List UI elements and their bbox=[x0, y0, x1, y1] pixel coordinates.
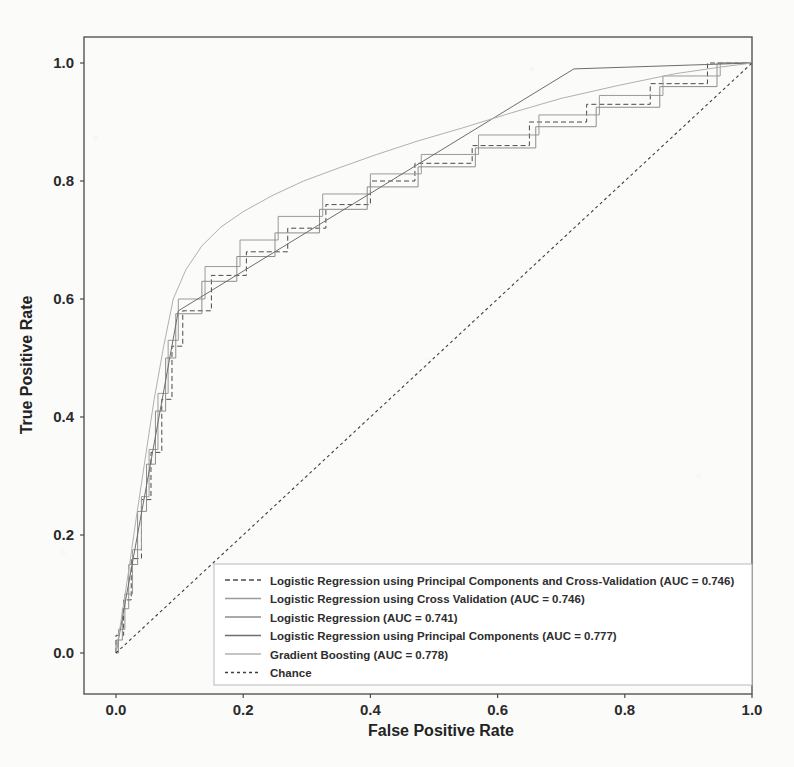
y-tick-label: 0.6 bbox=[53, 290, 74, 307]
legend-label-1: Logistic Regression using Cross Validati… bbox=[270, 593, 585, 605]
y-tick-label: 1.0 bbox=[53, 54, 74, 71]
y-tick-label: 0.0 bbox=[53, 644, 74, 661]
x-tick-label: 1.0 bbox=[742, 701, 763, 718]
y-axis-ticks: 0.00.20.40.60.81.0 bbox=[53, 54, 84, 661]
x-tick-label: 0.4 bbox=[360, 701, 382, 718]
legend-label-5: Chance bbox=[270, 667, 312, 679]
legend-label-2: Logistic Regression (AUC = 0.741) bbox=[270, 612, 458, 624]
y-tick-label: 0.2 bbox=[53, 526, 74, 543]
legend-label-0: Logistic Regression using Principal Comp… bbox=[270, 575, 734, 587]
y-axis-title: True Positive Rate bbox=[18, 296, 35, 435]
roc-chart-svg: 0.00.20.40.60.81.0 0.00.20.40.60.81.0 Fa… bbox=[0, 0, 794, 767]
x-tick-label: 0.2 bbox=[233, 701, 254, 718]
legend-label-3: Logistic Regression using Principal Comp… bbox=[270, 630, 617, 642]
chart-legend[interactable]: Logistic Regression using Principal Comp… bbox=[214, 564, 752, 685]
x-axis-title: False Positive Rate bbox=[368, 722, 514, 739]
y-tick-label: 0.4 bbox=[53, 408, 75, 425]
x-tick-label: 0.0 bbox=[106, 701, 127, 718]
x-tick-label: 0.8 bbox=[614, 701, 635, 718]
legend-label-4: Gradient Boosting (AUC = 0.778) bbox=[270, 649, 448, 661]
x-axis-ticks: 0.00.20.40.60.81.0 bbox=[106, 694, 763, 718]
x-tick-label: 0.6 bbox=[487, 701, 508, 718]
y-tick-label: 0.8 bbox=[53, 172, 74, 189]
roc-chart-page: 0.00.20.40.60.81.0 0.00.20.40.60.81.0 Fa… bbox=[0, 0, 794, 767]
